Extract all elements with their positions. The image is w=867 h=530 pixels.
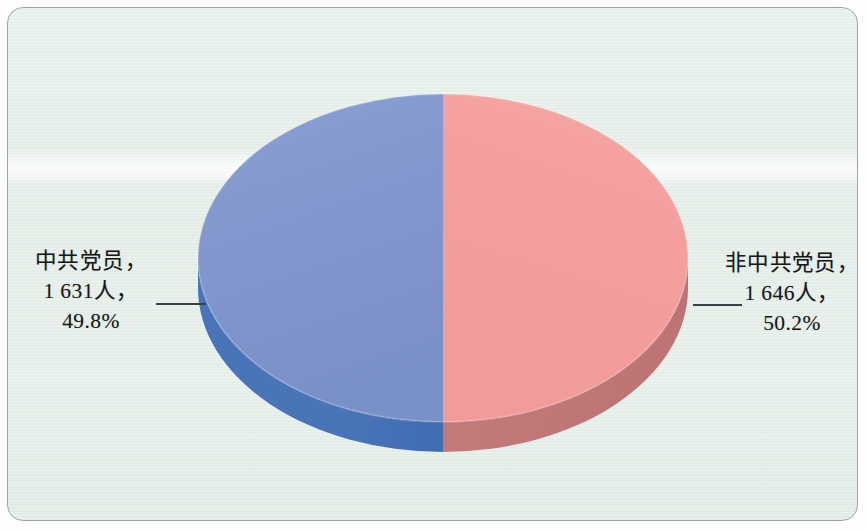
- pie-chart-figure: 中共党员， 1 631人， 49.8% 非中共党员， 1 646人， 50.2%: [0, 0, 867, 530]
- leader-line-left: [156, 303, 206, 305]
- scanned-page-panel: 中共党员， 1 631人， 49.8% 非中共党员， 1 646人， 50.2%: [7, 7, 858, 521]
- pie-label-dangyuan: 中共党员， 1 631人， 49.8%: [26, 246, 156, 336]
- pie-label-fei-dangyuan: 非中共党员， 1 646人， 50.2%: [722, 248, 858, 338]
